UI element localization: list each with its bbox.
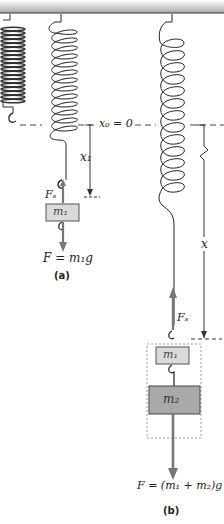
m1-label-a: m₁	[53, 205, 68, 218]
unstretched-spring	[1, 14, 25, 122]
x1-label: x₁	[80, 150, 92, 164]
ceiling	[0, 0, 224, 13]
x-dimension	[191, 125, 222, 339]
spring-mass-diagram: x₀ = 0 x₁ x Fₛ m₁ F = m₁g (a) Fₛ m₁ m₂ F…	[0, 0, 224, 524]
fs-label-a: Fₛ	[45, 188, 56, 201]
force-label-a: F = m₁g	[43, 251, 93, 265]
caption-b: (b)	[163, 505, 179, 516]
caption-a: (a)	[54, 270, 70, 281]
x0-label: x₀ = 0	[99, 117, 133, 130]
x-label: x	[200, 237, 209, 251]
fs-label-b: Fₛ	[177, 311, 188, 324]
spring-a	[49, 14, 77, 188]
force-label-b: F = (m₁ + m₂)g	[137, 479, 222, 492]
diagram-graphics	[0, 0, 224, 524]
m2-label-b: m₂	[163, 392, 179, 406]
m1-label-b: m₁	[163, 348, 178, 361]
spring-b	[159, 14, 184, 339]
